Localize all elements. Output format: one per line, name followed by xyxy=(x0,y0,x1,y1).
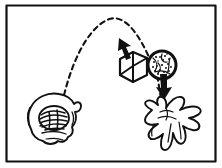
crumpled-ball xyxy=(39,106,69,130)
illustration-panel: Throwing and catching illustration Line … xyxy=(0,0,222,168)
illustration-canvas xyxy=(0,0,222,168)
canvas-background xyxy=(0,0,222,168)
cube-object xyxy=(120,52,147,82)
